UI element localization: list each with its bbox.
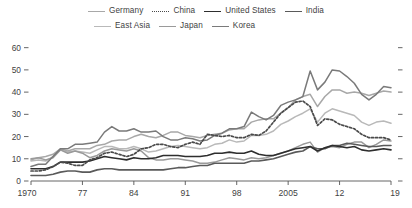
x-tick-label: 2005 <box>279 188 298 198</box>
y-tick-label: 40 <box>12 87 22 97</box>
x-tick-label: 84 <box>129 188 139 198</box>
series-line-germany <box>31 90 391 160</box>
line-chart: Germany China United States India East A… <box>0 0 412 208</box>
x-tick-label: 77 <box>78 188 88 198</box>
x-tick-label: 98 <box>232 188 242 198</box>
y-tick-label: 20 <box>12 132 22 142</box>
x-tick-label: 91 <box>181 188 191 198</box>
x-tick-label: 19 <box>390 188 400 198</box>
y-tick-label: 60 <box>12 43 22 53</box>
x-tick-label: 1970 <box>17 188 36 198</box>
y-tick-label: 50 <box>12 65 22 75</box>
y-tick-label: 10 <box>12 154 22 164</box>
plot-area: 010203040506019707784919820051219 <box>0 0 412 208</box>
x-tick-label: 12 <box>335 188 345 198</box>
y-tick-label: 0 <box>16 176 21 186</box>
y-tick-label: 30 <box>12 109 22 119</box>
series-line-china <box>31 101 391 171</box>
